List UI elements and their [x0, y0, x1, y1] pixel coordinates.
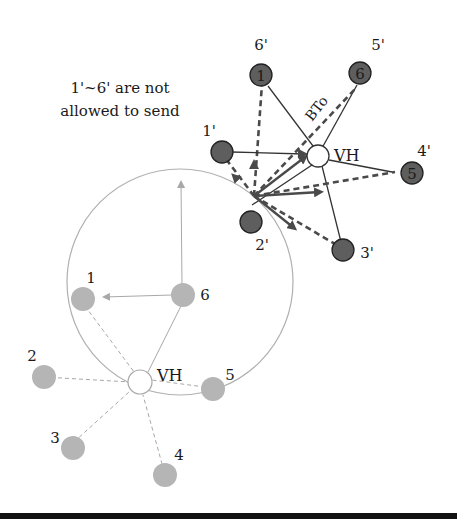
- upper-vh-hub: [307, 145, 329, 167]
- upper-node-2prime: 2': [240, 211, 269, 254]
- svg-text:2': 2': [255, 236, 269, 254]
- svg-text:1: 1: [86, 269, 96, 287]
- bottom-border: [0, 513, 457, 519]
- svg-text:4': 4': [417, 142, 431, 160]
- lower-node-1: 1: [71, 269, 96, 311]
- lower-vh-hub: [128, 370, 152, 394]
- annotation-line-2: allowed to send: [60, 102, 180, 120]
- svg-text:6': 6': [254, 36, 268, 54]
- svg-text:5: 5: [407, 165, 417, 183]
- upper-node-6prime: 1 6': [250, 36, 272, 86]
- upper-node-4prime: 5 4': [401, 142, 431, 184]
- lower-vh-label: VH: [156, 366, 183, 385]
- lower-node-6: 6: [171, 283, 210, 307]
- upper-node-3prime: 3': [332, 239, 374, 262]
- svg-text:5': 5': [371, 36, 385, 54]
- transmission-range-circle: [67, 169, 293, 395]
- svg-text:1: 1: [256, 67, 266, 85]
- svg-text:6: 6: [355, 65, 365, 83]
- svg-text:5: 5: [225, 366, 235, 384]
- upper-node-1prime: 1': [202, 122, 233, 163]
- lower-cluster-links: [44, 182, 212, 471]
- upper-vh-label: VH: [333, 146, 360, 165]
- svg-text:4: 4: [174, 446, 184, 464]
- lower-node-5: 5: [201, 366, 235, 401]
- svg-text:6: 6: [200, 286, 210, 304]
- svg-text:2: 2: [27, 347, 37, 365]
- annotation-line-1: 1'~6' are not: [70, 79, 169, 97]
- lower-node-4: 4: [153, 446, 184, 487]
- upper-node-5prime: 6 5': [349, 36, 385, 84]
- network-diagram: BTo VH 1 6' 1' 2' 3' 5 4' 6 5' VH 1 2: [0, 0, 457, 519]
- svg-text:3': 3': [360, 244, 374, 262]
- lower-node-2: 2: [27, 347, 56, 389]
- svg-text:3: 3: [50, 429, 60, 447]
- lower-node-3: 3: [50, 429, 85, 460]
- svg-text:1': 1': [202, 122, 216, 140]
